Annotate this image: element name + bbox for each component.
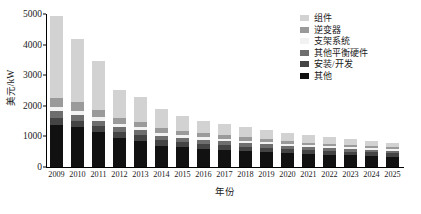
- bar-stack: [281, 133, 294, 167]
- bar-stack: [365, 141, 378, 167]
- legend-swatch-icon: [300, 15, 309, 21]
- bar-segment: [281, 133, 294, 141]
- bar-stack: [176, 116, 189, 167]
- bar-segment: [92, 61, 105, 110]
- y-axis-title: 美元/kW: [5, 58, 17, 118]
- bar-segment: [218, 124, 231, 135]
- bar-segment: [134, 141, 147, 167]
- bar-segment: [71, 39, 84, 102]
- x-axis-title: 年份: [46, 186, 403, 198]
- stacked-bar-chart: 美元/kW 010002000300040005000 200920102011…: [0, 0, 421, 214]
- legend-label: 组件: [314, 13, 332, 23]
- legend-label: 支架系统: [314, 36, 350, 46]
- bar-segment: [176, 147, 189, 167]
- x-tick-label: 2009: [46, 169, 67, 180]
- legend-item[interactable]: 逆变器: [300, 25, 368, 36]
- x-tick-label: 2021: [298, 169, 319, 180]
- bar-stack: [71, 39, 84, 167]
- bar-column: [151, 14, 172, 167]
- legend-item[interactable]: 支架系统: [300, 36, 368, 47]
- x-tick-label: 2017: [214, 169, 235, 180]
- bar-segment: [365, 156, 378, 167]
- bar-column: [193, 14, 214, 167]
- x-tick-label: 2013: [130, 169, 151, 180]
- bar-stack: [155, 109, 168, 167]
- bar-stack: [134, 97, 147, 167]
- x-axis-ticks: 2009201020112012201320142015201620172018…: [46, 169, 403, 180]
- bar-stack: [218, 124, 231, 167]
- bar-segment: [113, 90, 126, 118]
- bar-segment: [155, 146, 168, 167]
- legend-swatch-icon: [300, 73, 309, 79]
- bar-segment: [134, 97, 147, 122]
- bar-segment: [323, 155, 336, 167]
- bar-segment: [71, 102, 84, 110]
- bar-stack: [239, 127, 252, 167]
- bar-segment: [239, 151, 252, 167]
- legend-item[interactable]: 组件: [300, 13, 368, 24]
- bar-segment: [50, 118, 63, 125]
- bar-column: [88, 14, 109, 167]
- bar-segment: [302, 135, 315, 142]
- bar-segment: [344, 155, 357, 167]
- legend-item[interactable]: 其他平衡硬件: [300, 48, 368, 59]
- x-tick-label: 2010: [67, 169, 88, 180]
- bar-segment: [197, 121, 210, 134]
- chart-legend: 组件逆变器支架系统其他平衡硬件安装/开发其他: [300, 13, 368, 81]
- bar-column: [235, 14, 256, 167]
- x-tick-label: 2023: [340, 169, 361, 180]
- bar-stack: [302, 135, 315, 167]
- legend-swatch-icon: [300, 50, 309, 56]
- bar-column: [214, 14, 235, 167]
- bar-segment: [218, 150, 231, 167]
- bar-column: [130, 14, 151, 167]
- bar-column: [256, 14, 277, 167]
- bar-segment: [71, 127, 84, 167]
- bar-segment: [113, 138, 126, 167]
- x-tick-label: 2012: [109, 169, 130, 180]
- bar-segment: [50, 111, 63, 118]
- x-tick-label: 2014: [151, 169, 172, 180]
- bar-column: [277, 14, 298, 167]
- bar-segment: [50, 98, 63, 107]
- x-tick-label: 2020: [277, 169, 298, 180]
- bar-column: [67, 14, 88, 167]
- bar-stack: [386, 143, 399, 167]
- bar-segment: [50, 16, 63, 98]
- bar-segment: [239, 127, 252, 137]
- x-tick-label: 2016: [193, 169, 214, 180]
- bar-stack: [113, 90, 126, 167]
- bar-segment: [302, 154, 315, 167]
- bar-segment: [281, 153, 294, 167]
- bar-column: [382, 14, 403, 167]
- bar-column: [46, 14, 67, 167]
- bar-column: [109, 14, 130, 167]
- bar-segment: [155, 109, 168, 128]
- bar-stack: [344, 139, 357, 167]
- legend-item[interactable]: 其他: [300, 71, 368, 82]
- x-tick-label: 2011: [88, 169, 109, 180]
- legend-label: 其他平衡硬件: [314, 48, 368, 58]
- legend-label: 逆变器: [314, 25, 341, 35]
- legend-swatch-icon: [300, 61, 309, 67]
- legend-label: 其他: [314, 71, 332, 81]
- x-tick-label: 2024: [361, 169, 382, 180]
- bar-stack: [260, 130, 273, 167]
- bar-segment: [50, 125, 63, 167]
- bar-segment: [197, 149, 210, 167]
- bar-segment: [92, 110, 105, 117]
- bar-segment: [92, 132, 105, 167]
- bar-stack: [92, 61, 105, 167]
- bar-segment: [260, 130, 273, 139]
- x-tick-label: 2015: [172, 169, 193, 180]
- legend-swatch-icon: [300, 27, 309, 33]
- bar-segment: [176, 116, 189, 131]
- legend-swatch-icon: [300, 38, 309, 44]
- bar-stack: [323, 137, 336, 167]
- legend-item[interactable]: 安装/开发: [300, 59, 368, 70]
- x-axis-line: [46, 167, 404, 168]
- bar-stack: [197, 121, 210, 167]
- legend-label: 安装/开发: [314, 59, 353, 69]
- bar-stack: [50, 16, 63, 167]
- bar-segment: [71, 121, 84, 128]
